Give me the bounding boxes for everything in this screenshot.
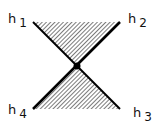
label-h1: h1 (8, 12, 27, 29)
center-vertex-dot (74, 63, 81, 70)
upper-hatched-triangle (33, 22, 120, 66)
lower-hatched-triangle (33, 66, 120, 109)
label-h3: h3 (133, 106, 152, 123)
label-h4: h4 (8, 103, 27, 120)
label-h2: h2 (128, 12, 147, 29)
